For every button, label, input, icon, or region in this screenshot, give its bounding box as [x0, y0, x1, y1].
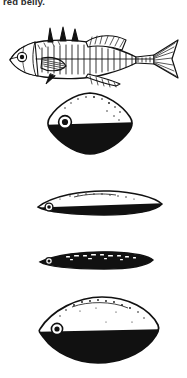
caption-clip: red belly.	[3, 0, 123, 8]
body-form-pointed-lens	[36, 292, 162, 366]
form3-outline	[40, 252, 153, 269]
fish-eye-pupil	[20, 55, 24, 59]
form1-eye-pupil	[62, 119, 68, 125]
form3-eye-pupil	[48, 260, 51, 263]
fish-lateral-illustration	[2, 26, 186, 88]
body-form-rounded-diamond	[44, 91, 136, 157]
body-form-flattened-oval	[30, 186, 166, 218]
form4-eye-pupil	[54, 326, 59, 331]
body-form-slender-dark	[36, 248, 156, 272]
caudal-peduncle	[136, 55, 154, 64]
caption-text: red belly.	[3, 0, 45, 7]
figure-page: red belly.	[0, 0, 187, 378]
form2-eye-pupil	[47, 205, 51, 209]
dorsal-spines	[48, 27, 78, 42]
